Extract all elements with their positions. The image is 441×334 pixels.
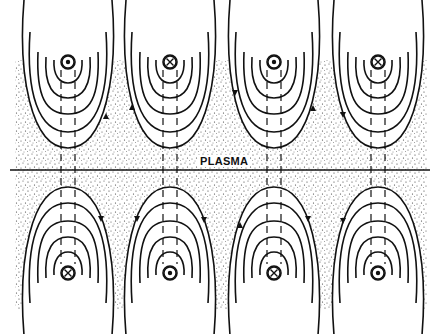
plasma-label: PLASMA xyxy=(198,155,250,167)
magnetic-cusp-diagram xyxy=(0,0,441,334)
